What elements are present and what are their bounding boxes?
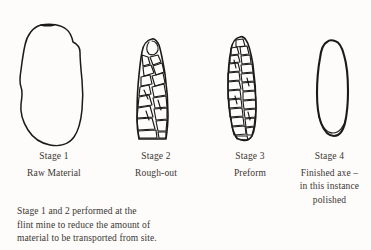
- stage-1-number: Stage 1: [6, 150, 102, 164]
- stage-3-name: Preform: [208, 167, 292, 181]
- stage-2-shape-rough-out: [137, 39, 168, 139]
- stage-2-name: Rough-out: [108, 167, 204, 181]
- stage-2-label: Stage 2 Rough-out: [108, 150, 204, 180]
- stage-4-shape-finished-axe: [317, 40, 348, 136]
- stage-1-shape-raw-material: [20, 24, 83, 145]
- caption-line-1: Stage 1 and 2 performed at the: [17, 205, 217, 219]
- stage-2-number: Stage 2: [108, 150, 204, 164]
- stage-4-name-line-2: in this instance: [288, 180, 371, 194]
- stage-3-shape-preform: [228, 37, 256, 141]
- stage-4-label: Stage 4 Finished axe – in this instance …: [288, 150, 371, 207]
- stage-4-number: Stage 4: [288, 150, 371, 164]
- figure-caption: Stage 1 and 2 performed at the flint min…: [17, 205, 217, 246]
- stage-1-name: Raw Material: [6, 167, 102, 181]
- stage-3-label: Stage 3 Preform: [208, 150, 292, 180]
- stage-4-name-line-3: polished: [288, 194, 371, 208]
- caption-line-2: flint mine to reduce the amount of: [17, 219, 217, 233]
- caption-line-3: material to be transported from site.: [17, 232, 217, 246]
- flint-axe-production-diagram: Stage 1 Raw Material Stage 2 Rough-out S…: [0, 0, 371, 250]
- stage-3-number: Stage 3: [208, 150, 292, 164]
- stage-4-name-line-1: Finished axe –: [288, 167, 371, 181]
- stage-1-label: Stage 1 Raw Material: [6, 150, 102, 180]
